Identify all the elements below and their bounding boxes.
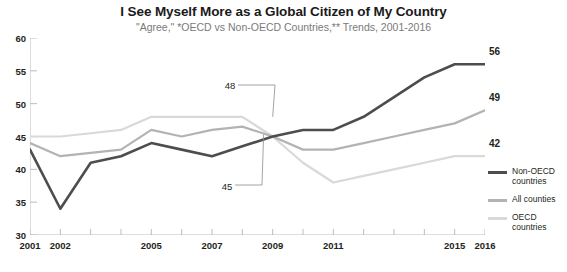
chart-container: I See Myself More as a Global Citizen of… — [0, 0, 567, 272]
chart-subtitle: "Agree," *OECD vs Non-OECD Countries,** … — [0, 21, 567, 34]
y-axis-labels: 30354045505560 — [0, 38, 26, 235]
plot-area — [30, 38, 485, 235]
legend-item-label: Non-OECD countries — [512, 166, 567, 186]
data-annotation-label: 48 — [225, 80, 236, 91]
series-line — [30, 117, 485, 183]
x-axis-tick-label: 2002 — [50, 240, 71, 251]
y-axis-tick-label: 35 — [15, 197, 26, 208]
y-axis-tick-label: 45 — [15, 131, 26, 142]
chart-svg — [30, 38, 485, 235]
series-end-label: 42 — [489, 138, 500, 149]
series-end-label: 49 — [489, 92, 500, 103]
x-axis-tick-label: 2011 — [323, 240, 344, 251]
data-annotation-label: 45 — [222, 181, 233, 192]
y-axis-tick-label: 55 — [15, 65, 26, 76]
y-axis-tick-label: 60 — [15, 33, 26, 44]
x-axis-labels: 20012002200520072009201120152016 — [30, 240, 485, 254]
x-axis-tick-label: 2009 — [262, 240, 283, 251]
x-axis-tick-label: 2001 — [19, 240, 40, 251]
legend-swatch-icon — [488, 217, 507, 220]
legend-swatch-icon — [488, 171, 507, 174]
x-axis-tick-label: 2007 — [201, 240, 222, 251]
legend-item-label: OECD countries — [512, 212, 567, 232]
y-axis-tick-label: 40 — [15, 164, 26, 175]
chart-title: I See Myself More as a Global Citizen of… — [0, 4, 567, 19]
chart-legend: Non-OECD countriesAll countiesOECD count… — [488, 166, 567, 242]
x-axis-tick-label: 2005 — [141, 240, 162, 251]
series-line — [30, 64, 485, 208]
y-axis-tick-label: 50 — [15, 98, 26, 109]
y-axis-tick-label: 30 — [15, 230, 26, 241]
x-ticks — [30, 229, 485, 235]
x-axis-tick-label: 2015 — [444, 240, 465, 251]
axis-lines — [30, 38, 485, 235]
legend-item-label: All counties — [512, 194, 567, 204]
series-end-label: 56 — [489, 46, 500, 57]
legend-swatch-icon — [488, 199, 507, 202]
